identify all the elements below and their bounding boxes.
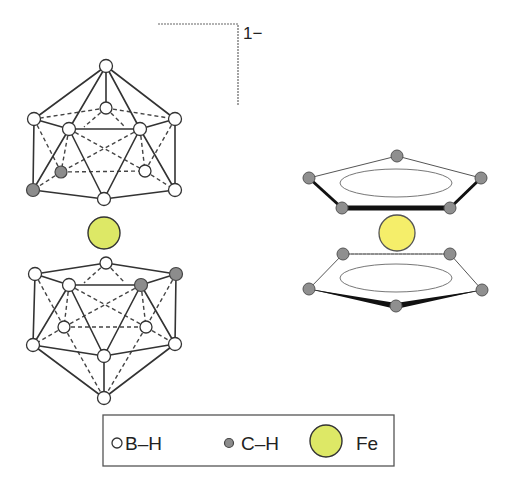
carbon-atom: [444, 202, 456, 214]
carbon-atom: [390, 300, 402, 312]
boron-atom: [140, 321, 152, 333]
upper-carborane-cage: [27, 60, 182, 206]
boron-atom: [27, 339, 40, 352]
charge-bracket: [158, 24, 238, 106]
sandwich-complex-diagram: 1−: [0, 0, 515, 485]
legend-label-bh: B–H: [125, 433, 162, 454]
carbon-atom: [476, 284, 488, 296]
carbon-atom: [303, 172, 315, 184]
carbon-atom: [135, 279, 148, 292]
carbon-atom: [475, 172, 487, 184]
boron-atom: [100, 60, 113, 73]
carbon-atom: [303, 283, 315, 295]
boron-atom: [28, 113, 41, 126]
legend-label-fe: Fe: [356, 433, 378, 454]
boron-legend-icon: [112, 438, 122, 448]
boron-atom: [134, 123, 147, 136]
carbon-atom: [170, 268, 183, 281]
boron-atom: [29, 268, 42, 281]
boron-atom: [139, 165, 151, 177]
boron-atom: [98, 392, 111, 405]
boron-atom: [169, 338, 182, 351]
carbon-atom: [337, 248, 349, 260]
carbon-atom: [336, 202, 348, 214]
lower-cyclopentadienyl-ring: [303, 248, 488, 312]
boron-atom: [63, 123, 76, 136]
legend: B–H C–H Fe: [103, 415, 394, 466]
boron-atom: [169, 113, 182, 126]
iron-atom-ferrocene: [379, 215, 415, 251]
upper-cyclopentadienyl-ring: [303, 150, 487, 214]
iron-atom-carborane: [88, 217, 120, 249]
boron-atom: [169, 184, 182, 197]
carbon-atom: [391, 150, 403, 162]
carbon-atom: [444, 248, 456, 260]
iron-legend-icon: [310, 425, 342, 457]
boron-atom: [100, 102, 112, 114]
lower-carborane-cage: [27, 257, 183, 405]
charge-label: 1−: [243, 24, 262, 43]
carbon-atom: [55, 166, 67, 178]
boron-atom: [63, 279, 76, 292]
carbon-atom: [27, 184, 40, 197]
boron-atom: [98, 350, 111, 363]
carbon-legend-icon: [225, 439, 234, 448]
legend-label-ch: C–H: [241, 433, 279, 454]
boron-atom: [98, 193, 111, 206]
boron-atom: [58, 321, 70, 333]
boron-atom: [100, 257, 112, 269]
